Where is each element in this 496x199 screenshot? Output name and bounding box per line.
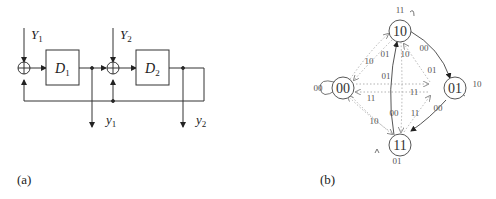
- label-01-to-10: 01: [428, 65, 437, 75]
- state-01-label: 01: [448, 81, 462, 96]
- label-y1-input: Y1: [31, 27, 43, 44]
- junction-feedback: [112, 100, 115, 103]
- label-y2-output: y2: [194, 112, 206, 129]
- label-00-to-10: 10: [365, 56, 375, 66]
- self-loop-11: [375, 149, 379, 153]
- label-01-to-11: 00: [434, 103, 444, 113]
- state-diagram: 10 00 01 11 11 00 10 01 00 10 01 10 01 0…: [314, 5, 483, 166]
- caption-b: (b): [320, 172, 335, 188]
- figure-canvas: Y1 Y2 D1 D2 y1 y2: [0, 0, 496, 199]
- self-loop-11-label: 01: [393, 156, 402, 166]
- label-y1-output: y1: [104, 112, 116, 129]
- state-11-label: 11: [393, 138, 406, 153]
- label-10-to-11: 10: [401, 49, 411, 59]
- label-11-to-01: 11: [411, 108, 420, 118]
- label-01-to-00: 11: [410, 87, 419, 97]
- caption-a: (a): [17, 172, 31, 188]
- label-y2-input: Y2: [120, 27, 132, 44]
- self-loop-10: [410, 11, 414, 16]
- label-11-to-00: 10: [370, 116, 380, 126]
- label-11-to-10: 00: [390, 108, 400, 118]
- state-10-label: 10: [393, 24, 407, 39]
- self-loop-10-label: 11: [396, 5, 405, 15]
- self-loop-00-label: 00: [314, 83, 324, 93]
- self-loop-01-label: 10: [473, 79, 483, 89]
- label-10-to-00: 01: [381, 49, 390, 59]
- label-10-to-01: 00: [420, 43, 430, 53]
- state-00-label: 00: [336, 81, 350, 96]
- edge-11-to-10: [391, 42, 397, 135]
- label-00-to-01: 01: [382, 71, 391, 81]
- label-00-to-11: 11: [367, 93, 376, 103]
